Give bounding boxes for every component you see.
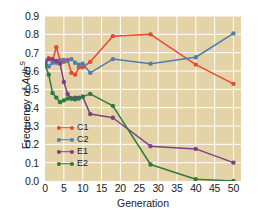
data-point-E2 [65,96,69,100]
data-point-E2 [54,95,58,99]
data-point-E2 [69,96,73,100]
legend-label: C1 [77,123,88,132]
chart-figure: Frequency of AdhS 0.00.10.20.30.40.50.60… [0,0,258,210]
plot-area: C1C2E1E2 [45,16,241,181]
y-tick-label: 0.9 [25,10,39,22]
data-point-C2 [62,58,66,62]
data-point-E1 [58,61,62,65]
x-tick-label: 5 [61,182,67,194]
data-point-E2 [50,91,54,95]
data-point-E1 [231,160,235,164]
data-point-C2 [80,61,84,65]
data-point-C2 [77,62,81,66]
data-point-C2 [111,57,115,61]
x-tick-label: 40 [190,182,201,194]
x-tick-label: 50 [228,182,239,194]
data-point-C1 [111,34,115,38]
x-axis-ticks: 05101520253035404550 [45,182,241,195]
data-point-C2 [69,57,73,61]
data-point-E2 [62,98,66,102]
legend-swatch-icon [57,135,74,144]
data-point-E2 [88,92,92,96]
y-tick-label: 0.3 [25,120,39,132]
y-tick-label: 0.6 [25,65,39,77]
y-tick-label: 0.1 [25,157,39,169]
data-point-E1 [111,116,115,120]
x-tick-label: 35 [171,182,182,194]
series-C1 [45,32,236,86]
data-point-E2 [77,95,81,99]
legend-label: E2 [77,159,88,168]
x-tick-label: 10 [77,182,88,194]
x-tick-label: 0 [42,182,48,194]
legend-label: E1 [77,147,88,156]
legend-item-C1[interactable]: C1 [57,122,88,133]
data-point-C1 [231,82,235,86]
data-point-C1 [148,32,152,36]
data-point-E1 [62,80,66,84]
data-point-C1 [54,45,58,49]
legend-swatch-icon [57,159,74,168]
data-point-E1 [47,57,51,61]
data-point-E2 [73,97,77,101]
data-point-C2 [73,61,77,65]
legend-item-E2[interactable]: E2 [57,158,88,169]
data-point-C2 [231,31,235,35]
data-point-E2 [148,162,152,166]
data-point-E2 [111,104,115,108]
legend-label: C2 [77,135,88,144]
data-point-C2 [88,71,92,75]
data-point-E2 [47,72,51,76]
series-C2 [45,31,236,75]
legend-item-C2[interactable]: C2 [57,134,88,145]
data-point-E2 [194,177,198,181]
y-tick-label: 0.0 [25,175,39,187]
data-point-E1 [50,57,54,61]
x-axis-label: Generation [45,197,241,209]
legend-swatch-icon [57,123,74,132]
x-tick-label: 30 [152,182,163,194]
x-tick-label: 25 [134,182,145,194]
data-point-E1 [148,144,152,148]
data-point-C2 [65,59,69,63]
data-point-E1 [54,59,58,63]
data-point-E2 [58,100,62,104]
legend-swatch-icon [57,147,74,156]
data-point-E2 [231,179,235,181]
x-tick-label: 15 [96,182,107,194]
series-line-C2 [45,33,233,72]
x-tick-label: 45 [209,182,220,194]
y-tick-label: 0.8 [25,28,39,40]
y-tick-label: 0.7 [25,47,39,59]
y-tick-label: 0.4 [25,102,39,114]
data-point-E1 [88,112,92,116]
data-point-C1 [194,62,198,66]
y-tick-label: 0.5 [25,83,39,95]
y-axis-ticks: 0.00.10.20.30.40.50.60.70.80.9 [0,16,42,181]
legend: C1C2E1E2 [57,122,88,169]
legend-item-E1[interactable]: E1 [57,146,88,157]
data-point-E1 [194,147,198,151]
data-point-C2 [47,64,51,68]
data-point-C1 [69,71,73,75]
data-point-E2 [80,94,84,98]
data-point-C1 [73,72,77,76]
x-tick-label: 20 [115,182,126,194]
data-point-C1 [88,60,92,64]
data-point-C2 [194,55,198,59]
data-point-C2 [148,61,152,65]
y-tick-label: 0.2 [25,138,39,150]
data-point-E1 [65,92,69,96]
